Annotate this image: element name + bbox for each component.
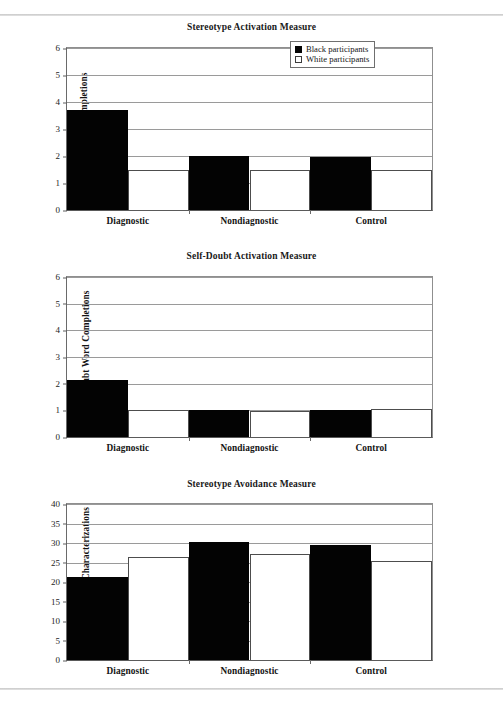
bar-diagnostic-white [128,557,189,660]
y-axis-tick-label: 4 [56,326,68,335]
bar-nondiagnostic-white [250,170,311,211]
chart-title: Stereotype Avoidance Measure [0,479,503,489]
legend-item-label: Black participants [306,44,368,54]
bar-control-white [371,561,432,660]
gridline [67,102,432,103]
x-axis-tick-label: Nondiagnostic [220,666,278,676]
y-axis-tick-label: 3 [56,353,68,362]
y-axis-tick-label: 4 [56,98,68,107]
bar-diagnostic-white [128,170,189,211]
page-rule-top [0,14,503,16]
gridline [67,48,432,49]
x-axis-tick-label: Diagnostic [106,216,149,226]
y-axis-tick-label: 1 [56,179,68,188]
x-axis-tick-label: Diagnostic [106,443,149,453]
x-axis-tick-label: Nondiagnostic [220,216,278,226]
gridline [67,504,432,505]
y-axis-tick-label: 6 [56,273,68,282]
y-axis-tick-label: 0 [56,656,68,665]
y-axis-tick-label: 15 [51,597,67,606]
y-axis-tick-label: 0 [56,433,68,442]
gridline [67,357,432,358]
y-axis-tick-label: 0 [56,206,68,215]
bar-control-black [310,157,371,210]
gridline [67,304,432,305]
gridline [67,524,432,525]
plot-area: Self-Doubt Word Completions 0123456Diagn… [66,276,433,438]
x-axis-tick-mark [189,210,190,214]
y-axis-tick-label: 6 [56,44,68,53]
bar-nondiagnostic-black [189,156,250,210]
bar-nondiagnostic-white [250,411,311,437]
bar-nondiagnostic-white [250,554,311,660]
legend-item-black: Black participants [295,44,369,54]
x-axis-tick-label: Control [355,666,387,676]
y-axis-tick-label: 5 [56,636,68,645]
bar-diagnostic-black [67,380,128,437]
bar-diagnostic-black [67,110,128,210]
gridline [67,543,432,544]
y-axis-tick-label: 5 [56,299,68,308]
bar-control-black [310,410,371,437]
y-axis-tick-label: 2 [56,379,68,388]
filled-black-square-icon [295,46,302,53]
x-axis-tick-mark [310,660,311,664]
y-axis-tick-label: 35 [51,519,67,528]
bar-nondiagnostic-black [189,410,250,437]
bar-control-white [371,170,432,211]
chart-stereotype-avoidance: Stereotype Avoidance Measure Stereotypic… [0,479,503,691]
x-axis-tick-label: Control [355,216,387,226]
gridline [67,277,432,278]
y-axis-tick-label: 20 [51,578,67,587]
chart-title: Self-Doubt Activation Measure [0,251,503,261]
plot-area: Racial Word Completions 0123456Diagnosti… [66,47,433,211]
x-axis-tick-mark [310,437,311,441]
y-axis-tick-label: 10 [51,617,67,626]
x-axis-tick-mark [189,437,190,441]
bar-diagnostic-white [128,410,189,437]
legend-item-white: White participants [295,54,369,64]
figure-page: Stereotype Activation Measure Racial Wor… [0,0,503,710]
bar-nondiagnostic-black [189,542,250,660]
y-axis-tick-label: 30 [51,539,67,548]
chart-self-doubt-activation: Self-Doubt Activation Measure Self-Doubt… [0,251,503,466]
y-axis-tick-label: 3 [56,125,68,134]
x-axis-tick-label: Diagnostic [106,666,149,676]
y-axis-tick-label: 40 [51,500,67,509]
x-axis-tick-mark [189,660,190,664]
y-axis-tick-label: 1 [56,406,68,415]
bar-control-white [371,409,432,437]
y-axis-tick-label: 2 [56,152,68,161]
x-axis-tick-mark [310,210,311,214]
y-axis-tick-label: 5 [56,71,68,80]
chart-stereotype-activation: Stereotype Activation Measure Racial Wor… [0,22,503,237]
bar-diagnostic-black [67,577,128,660]
hollow-white-square-icon [295,56,302,63]
legend-item-label: White participants [306,54,369,64]
y-axis-tick-label: 25 [51,558,67,567]
bar-control-black [310,545,371,660]
plot-area: Stereotypic Self-Characterizations 05101… [66,503,433,661]
gridline [67,75,432,76]
gridline [67,330,432,331]
x-axis-tick-label: Nondiagnostic [220,443,278,453]
chart-legend: Black participantsWhite participants [290,41,375,68]
x-axis-tick-label: Control [355,443,387,453]
chart-title: Stereotype Activation Measure [0,22,503,32]
